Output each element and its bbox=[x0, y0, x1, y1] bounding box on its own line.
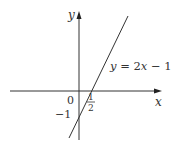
origin-label: 0 bbox=[67, 94, 74, 107]
y-axis-arrow-icon bbox=[77, 11, 82, 19]
x-intercept-numerator: 1 bbox=[88, 92, 94, 102]
y-axis-label: y bbox=[67, 8, 75, 22]
x-axis-label: x bbox=[155, 95, 162, 109]
line-graph: y x 0 −1 1 2 y = 2x − 1 bbox=[0, 0, 171, 150]
line-y-equals-2x-minus-1 bbox=[69, 16, 128, 138]
x-axis-arrow-icon bbox=[154, 89, 162, 94]
x-intercept-denominator: 2 bbox=[88, 103, 94, 113]
equation-label: y = 2x − 1 bbox=[109, 59, 171, 73]
y-intercept-label: −1 bbox=[55, 108, 71, 121]
